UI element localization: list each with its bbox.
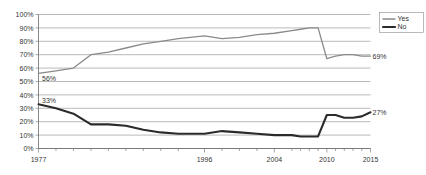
- y-axis-tick-label: 90%: [19, 25, 33, 32]
- y-axis-tick-label: 70%: [19, 51, 33, 58]
- y-axis-ticks-group: [36, 15, 39, 149]
- y-axis-tick-label: 30%: [19, 105, 33, 112]
- legend-label-no: No: [398, 23, 407, 30]
- x-axis-tick-label: 1996: [197, 156, 213, 163]
- x-axis-tick-label: 2015: [363, 156, 379, 163]
- chart-container: 0%10%20%30%40%50%60%70%80%90%100% 197719…: [0, 0, 426, 175]
- y-axis-tick-label: 10%: [19, 132, 33, 139]
- y-axis-tick-label: 50%: [19, 78, 33, 85]
- series-line-no: [39, 104, 371, 136]
- series-group: [39, 28, 371, 137]
- data-point-label: 56%: [42, 75, 56, 82]
- y-axis-tick-label: 100%: [16, 11, 34, 18]
- x-axis-ticks-group: [39, 149, 371, 153]
- x-axis-tick-label: 1977: [31, 156, 47, 163]
- y-axis-labels-group: 0%10%20%30%40%50%60%70%80%90%100%: [16, 11, 34, 152]
- data-labels-group: 56%33%69%27%: [42, 53, 387, 116]
- y-axis-tick-label: 40%: [19, 92, 33, 99]
- line-chart: 0%10%20%30%40%50%60%70%80%90%100% 197719…: [0, 0, 426, 175]
- data-point-label: 69%: [373, 53, 387, 60]
- x-axis-labels-group: 19771996200420102015: [31, 156, 379, 163]
- y-axis-tick-label: 0%: [23, 145, 33, 152]
- legend-label-yes: Yes: [398, 15, 410, 22]
- data-point-label: 27%: [373, 109, 387, 116]
- chart-legend: YesNo: [380, 13, 424, 33]
- x-axis-tick-label: 2004: [267, 156, 283, 163]
- x-axis-tick-label: 2010: [319, 156, 335, 163]
- y-axis-tick-label: 60%: [19, 65, 33, 72]
- y-axis-tick-label: 80%: [19, 38, 33, 45]
- y-axis-tick-label: 20%: [19, 118, 33, 125]
- data-point-label: 33%: [42, 97, 56, 104]
- series-line-yes: [39, 28, 371, 74]
